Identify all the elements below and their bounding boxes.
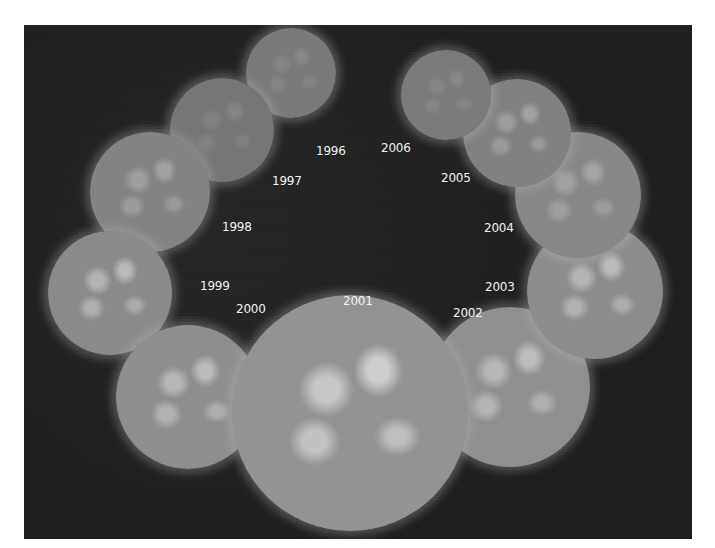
year-label-1997: 1997 (272, 175, 302, 187)
year-label-2004: 2004 (484, 222, 514, 234)
year-label-2002: 2002 (453, 307, 483, 319)
year-label-2001: 2001 (343, 295, 373, 307)
year-label-2003: 2003 (485, 281, 515, 293)
year-label-1996: 1996 (316, 145, 346, 157)
year-label-2005: 2005 (441, 172, 471, 184)
year-label-1998: 1998 (222, 221, 252, 233)
year-label-1999: 1999 (200, 280, 230, 292)
solar-cycle-image: 1996 1997 1998 1999 2000 2001 2002 2003 … (24, 25, 692, 539)
year-label-2000: 2000 (236, 303, 266, 315)
year-label-2006: 2006 (381, 142, 411, 154)
sun-2001 (232, 295, 468, 531)
sun-2006 (401, 50, 491, 140)
